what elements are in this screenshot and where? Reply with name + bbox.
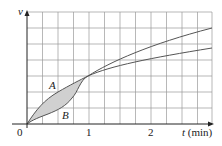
x-tick-0: 0 xyxy=(17,127,23,138)
x-axis-var: t xyxy=(182,126,185,138)
curve-b-label: B xyxy=(62,110,69,121)
x-axis-unit: (min) xyxy=(188,126,212,138)
chart-plot xyxy=(0,0,222,146)
y-axis-label: v xyxy=(18,6,23,17)
curve-a-label: A xyxy=(49,80,56,91)
x-tick-1: 1 xyxy=(86,127,92,138)
y-axis-arrow-icon xyxy=(25,10,30,16)
shaded-region xyxy=(27,76,88,124)
x-axis-label: t (min) xyxy=(182,127,212,138)
x-tick-2: 2 xyxy=(148,127,154,138)
